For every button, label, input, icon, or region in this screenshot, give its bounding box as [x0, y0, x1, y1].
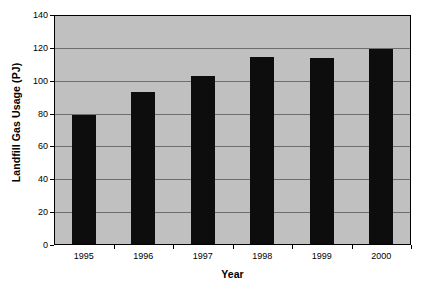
y-axis-tick-label: 100	[22, 76, 48, 86]
plot-area	[54, 15, 411, 245]
x-axis-tick-label: 1997	[177, 250, 229, 262]
gridline	[55, 146, 410, 147]
gridline	[55, 179, 410, 180]
gridline	[55, 212, 410, 213]
bar	[250, 57, 274, 244]
x-axis-tick-mark	[173, 245, 174, 249]
y-axis-tick-label: 60	[22, 141, 48, 151]
x-axis-tick-mark	[352, 245, 353, 249]
bar	[310, 58, 334, 244]
y-axis-tick-mark	[50, 81, 54, 82]
x-axis-tick-mark	[233, 245, 234, 249]
y-axis-tick-mark	[50, 212, 54, 213]
y-axis-tick-labels: 020406080100120140	[22, 0, 48, 295]
bar	[369, 49, 393, 245]
gridline	[55, 81, 410, 82]
y-axis-tick-label: 140	[22, 10, 48, 20]
x-axis-tick-label: 1998	[236, 250, 288, 262]
bar	[191, 76, 215, 244]
gridline	[55, 48, 410, 49]
y-axis-tick-label: 0	[22, 240, 48, 250]
gridline	[55, 114, 410, 115]
x-axis-title: Year	[54, 268, 411, 280]
x-axis-tick-mark	[411, 245, 412, 249]
bar-chart: Landfill Gas Usage (PJ) 0204060801001201…	[0, 0, 423, 295]
y-axis-tick-mark	[50, 15, 54, 16]
x-axis-tick-label: 1995	[58, 250, 110, 262]
y-axis-tick-mark	[50, 146, 54, 147]
y-axis-tick-mark	[50, 114, 54, 115]
y-axis-tick-label: 40	[22, 174, 48, 184]
x-axis-tick-label: 1996	[117, 250, 169, 262]
y-axis-tick-mark	[50, 179, 54, 180]
y-axis-tick-mark	[50, 48, 54, 49]
x-axis-tick-mark	[292, 245, 293, 249]
y-axis-tick-label: 120	[22, 43, 48, 53]
bar	[72, 115, 96, 244]
x-axis-tick-label: 1999	[296, 250, 348, 262]
y-axis-tick-label: 20	[22, 207, 48, 217]
x-axis-tick-labels: 199519961997199819992000	[54, 250, 411, 264]
y-axis-tick-mark	[50, 245, 54, 246]
x-axis-tick-label: 2000	[355, 250, 407, 262]
x-axis-tick-mark	[114, 245, 115, 249]
bar	[131, 92, 155, 244]
y-axis-tick-label: 80	[22, 109, 48, 119]
